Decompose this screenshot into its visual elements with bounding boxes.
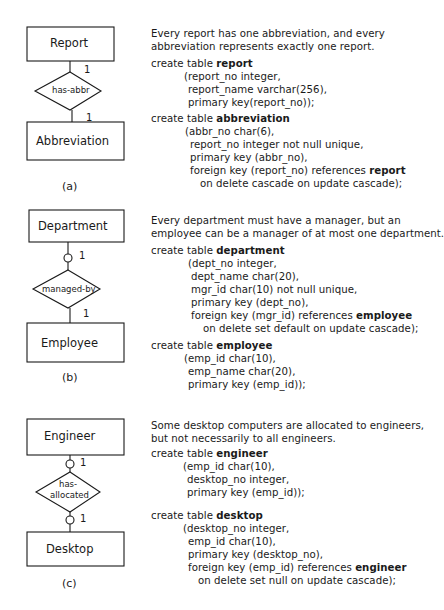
referenced-table: engineer bbox=[355, 562, 406, 573]
cardinality-label: 1 bbox=[80, 457, 86, 468]
table-name: desktop bbox=[216, 510, 263, 521]
create-table-statement: create table engineer bbox=[151, 447, 268, 460]
description-line: Every report has one abbreviation, and e… bbox=[151, 27, 385, 40]
entity-label: Report bbox=[50, 36, 88, 50]
table-name: abbreviation bbox=[216, 113, 290, 124]
sql-keyword: create table bbox=[151, 113, 216, 124]
sql-line: primary key (dept_no), bbox=[191, 296, 308, 309]
table-name: employee bbox=[216, 340, 272, 351]
create-table-statement: create table department bbox=[151, 244, 285, 257]
relationship-label: managed-by bbox=[42, 284, 96, 294]
sql-line: on delete cascade on update cascade); bbox=[200, 177, 402, 190]
optional-circle-icon bbox=[64, 254, 72, 262]
sql-line: dept_name char(20), bbox=[191, 270, 299, 283]
sql-line: emp_name char(20), bbox=[188, 365, 295, 378]
relationship-label: has-abbr bbox=[52, 85, 90, 95]
sql-line: desktop_no integer, bbox=[187, 473, 289, 486]
sql-line: report_name varchar(256), bbox=[188, 83, 327, 96]
cardinality-label: 1 bbox=[86, 112, 92, 123]
table-name: engineer bbox=[216, 448, 267, 459]
create-table-statement: create table report bbox=[151, 57, 253, 70]
foreign-key-line: foreign key (emp_id) references engineer bbox=[188, 561, 407, 574]
optional-circle-icon bbox=[66, 516, 74, 524]
relationship-label-line1: has- bbox=[59, 479, 77, 489]
optional-circle-icon bbox=[66, 460, 74, 468]
description-line: employee can be a manager of at most one… bbox=[151, 227, 444, 240]
sql-line: (abbr_no char(6), bbox=[185, 125, 274, 138]
description-line: abbreviation represents exactly one repo… bbox=[151, 40, 375, 53]
sql-text: foreign key (emp_id) references bbox=[188, 562, 355, 573]
sql-line: mgr_id char(10) not null unique, bbox=[191, 283, 357, 296]
figure-caption: (b) bbox=[62, 371, 78, 384]
create-table-statement: create table employee bbox=[151, 339, 272, 352]
cardinality-label: 1 bbox=[79, 250, 85, 261]
foreign-key-line: foreign key (report_no) references repor… bbox=[190, 164, 406, 177]
referenced-table: report bbox=[369, 165, 405, 176]
figure-caption: (a) bbox=[62, 180, 77, 193]
sql-line: on delete set default on update cascade)… bbox=[203, 322, 418, 335]
sql-keyword: create table bbox=[151, 245, 216, 256]
relationship-label-line2: allocated bbox=[50, 490, 89, 500]
sql-line: on delete set null on update cascade); bbox=[198, 574, 396, 587]
description-line: but not necessarily to all engineers. bbox=[151, 432, 336, 445]
sql-text: foreign key (report_no) references bbox=[190, 165, 369, 176]
sql-line: (report_no integer, bbox=[184, 70, 281, 83]
sql-line: primary key (emp_id)); bbox=[188, 378, 306, 391]
entity-label: Desktop bbox=[46, 542, 93, 556]
entity-label: Department bbox=[38, 219, 108, 233]
entity-label: Employee bbox=[41, 336, 98, 350]
sql-line: (desktop_no integer, bbox=[183, 522, 289, 535]
entity-label: Abbreviation bbox=[36, 134, 109, 148]
sql-line: (dept_no integer, bbox=[188, 257, 277, 270]
sql-keyword: create table bbox=[151, 58, 216, 69]
sql-line: (emp_id char(10), bbox=[183, 460, 275, 473]
cardinality-label: 1 bbox=[83, 308, 89, 319]
sql-line: report_no integer not null unique, bbox=[190, 138, 363, 151]
table-name: department bbox=[216, 245, 284, 256]
sql-line: primary key (desktop_no), bbox=[188, 548, 323, 561]
table-name: report bbox=[216, 58, 252, 69]
create-table-statement: create table abbreviation bbox=[151, 112, 290, 125]
entity-label: Engineer bbox=[44, 429, 95, 443]
description-line: Every department must have a manager, bu… bbox=[151, 214, 401, 227]
sql-line: primary key (abbr_no), bbox=[190, 151, 308, 164]
sql-line: primary key (emp_id)); bbox=[187, 486, 305, 499]
foreign-key-line: foreign key (mgr_id) references employee bbox=[191, 309, 412, 322]
cardinality-label: 1 bbox=[80, 513, 86, 524]
referenced-table: employee bbox=[356, 310, 412, 321]
sql-keyword: create table bbox=[151, 510, 216, 521]
description-line: Some desktop computers are allocated to … bbox=[151, 419, 424, 432]
sql-line: primary key(report_no)); bbox=[188, 96, 314, 109]
figure-caption: (c) bbox=[62, 577, 77, 590]
sql-keyword: create table bbox=[151, 448, 216, 459]
sql-text: foreign key (mgr_id) references bbox=[191, 310, 356, 321]
cardinality-label: 1 bbox=[84, 64, 90, 75]
sql-line: emp_id char(10), bbox=[188, 535, 276, 548]
sql-line: (emp_id char(10), bbox=[184, 352, 276, 365]
create-table-statement: create table desktop bbox=[151, 509, 263, 522]
sql-keyword: create table bbox=[151, 340, 216, 351]
